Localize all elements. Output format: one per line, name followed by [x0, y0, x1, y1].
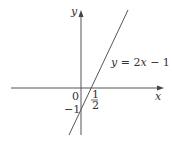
- y-intercept-label: −1: [64, 103, 80, 116]
- equation-label: y = 2x − 1: [110, 56, 170, 69]
- y-axis-label: y: [70, 5, 78, 18]
- y-axis-arrow-icon: [79, 10, 84, 17]
- line-y-equals-2x-minus-1: [69, 10, 128, 135]
- x-axis-label: x: [155, 90, 162, 103]
- origin-label: 0: [72, 90, 79, 103]
- graph: y x 0 −1 1 2 y = 2x − 1: [0, 0, 172, 146]
- x-intercept-denominator: 2: [92, 99, 99, 112]
